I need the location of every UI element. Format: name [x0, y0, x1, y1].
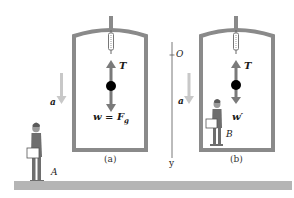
support-rod-a	[109, 16, 113, 30]
caption-b: (b)	[230, 155, 243, 164]
spring-scale-a	[109, 30, 114, 54]
elevator-diagram	[0, 0, 294, 198]
person-a	[27, 123, 44, 183]
observer-label-b: B	[226, 130, 233, 139]
axis-origin-label: O	[176, 50, 183, 59]
tension-label-a: T	[119, 61, 126, 71]
elevator-b	[201, 16, 273, 150]
ground	[14, 181, 292, 190]
weight-label-b: w′	[232, 112, 243, 122]
accel-label-b: a	[178, 97, 184, 106]
axis-y-label: y	[169, 159, 174, 168]
elevator-a	[74, 16, 146, 150]
mass-b	[231, 80, 241, 90]
weight-label-a-text: w = F	[93, 111, 124, 122]
weight-label-a: w = Fg	[93, 112, 129, 124]
accel-label-a: a	[50, 98, 56, 107]
person-b	[206, 99, 223, 146]
y-axis	[170, 42, 175, 158]
weight-label-a-subscript: g	[124, 116, 129, 125]
mass-a	[106, 81, 116, 91]
spring-scale-b	[234, 30, 239, 54]
tension-label-b: T	[244, 61, 251, 71]
acceleration-arrow-a	[57, 73, 67, 104]
acceleration-arrow-b	[184, 73, 194, 104]
observer-label-a: A	[51, 168, 58, 177]
support-rod-b	[234, 16, 238, 30]
caption-a: (a)	[104, 155, 116, 164]
